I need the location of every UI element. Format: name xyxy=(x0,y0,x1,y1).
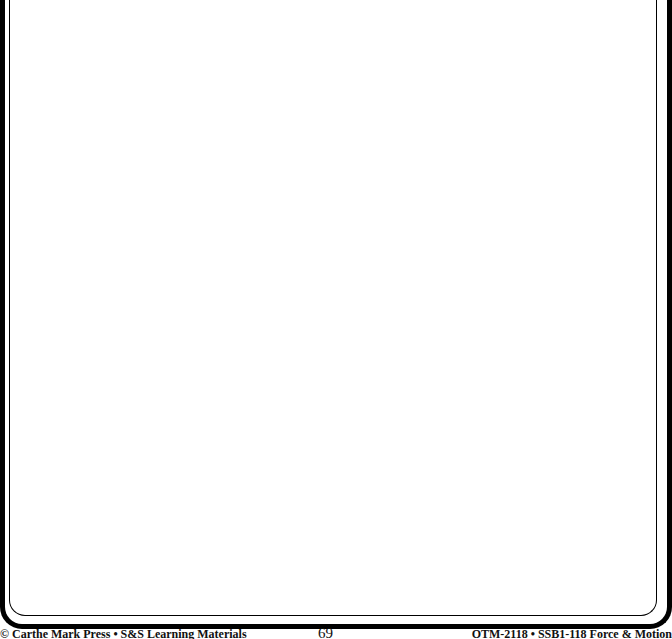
page-number: 69 xyxy=(318,625,333,639)
page-inner-border xyxy=(9,0,657,616)
page-footer: © Carthe Mark Press • S&S Learning Mater… xyxy=(0,627,672,639)
product-code-text: OTM-2118 • SSB1-118 Force & Motion xyxy=(472,627,672,639)
copyright-text: © Carthe Mark Press • S&S Learning Mater… xyxy=(0,627,247,639)
